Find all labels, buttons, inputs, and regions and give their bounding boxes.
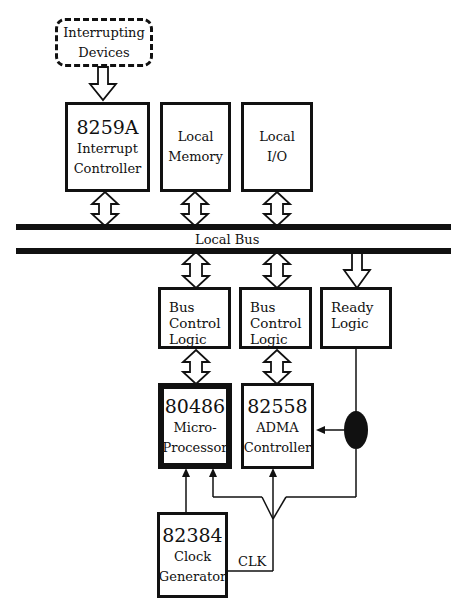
cpu-line2: Processor: [162, 438, 227, 458]
bus-control-logic-2-block: Bus Control Logic: [239, 287, 312, 349]
memory-line1: Local: [178, 127, 214, 147]
clock-part-number: 82384: [162, 523, 222, 547]
ready-line1: Ready: [331, 299, 373, 315]
connection-wires: [0, 0, 462, 609]
clock-line2: Generator: [159, 567, 226, 587]
bcl1-line2: Control: [169, 315, 220, 331]
devices-line2: Devices: [78, 43, 129, 63]
ready-logic-block: Ready Logic: [320, 287, 392, 349]
io-line1: Local: [259, 127, 295, 147]
ready-junction: [344, 411, 368, 449]
memory-line2: Memory: [168, 147, 223, 167]
clk-label: CLK: [238, 554, 266, 569]
arrow-bus-ready: [344, 252, 370, 288]
local-memory-block: Local Memory: [160, 102, 231, 192]
arrow-bus-bcl2: [264, 252, 290, 288]
bcl2-line2: Control: [250, 315, 301, 331]
arrow-memory-bus: [182, 192, 208, 226]
ready-line2: Logic: [331, 315, 369, 331]
arrow-bcl1-cpu: [183, 350, 209, 384]
cpu-part-number: 80486: [165, 394, 225, 418]
pic-part-number: 8259A: [76, 115, 138, 139]
local-io-block: Local I/O: [241, 102, 313, 192]
bcl1-line1: Bus: [169, 299, 195, 315]
local-bus-bottom-line: [16, 248, 451, 254]
adma-line1: ADMA: [256, 418, 299, 438]
local-bus-top-line: [16, 224, 451, 230]
adma-part-number: 82558: [247, 394, 307, 418]
arrow-pic-bus: [92, 192, 118, 226]
io-line2: I/O: [267, 147, 287, 167]
bcl2-line3: Logic: [250, 331, 288, 347]
interrupt-controller-block: 8259A Interrupt Controller: [65, 102, 150, 192]
bcl1-line3: Logic: [169, 331, 207, 347]
devices-line1: Interrupting: [63, 23, 145, 43]
bcl2-line1: Bus: [250, 299, 276, 315]
arrow-devices-to-pic: [90, 67, 116, 100]
pic-line1: Interrupt: [77, 139, 138, 159]
arrow-bus-bcl1: [183, 252, 209, 288]
interrupting-devices-block: Interrupting Devices: [55, 18, 153, 67]
microprocessor-block: 80486 Micro- Processor: [158, 383, 232, 469]
adma-line2: Controller: [244, 438, 312, 458]
bus-control-logic-1-block: Bus Control Logic: [158, 287, 231, 349]
cpu-line1: Micro-: [173, 418, 216, 438]
clock-generator-block: 82384 Clock Generator: [157, 512, 228, 598]
pic-line2: Controller: [74, 159, 142, 179]
local-bus-label: Local Bus: [195, 232, 259, 247]
clock-line1: Clock: [174, 547, 211, 567]
adma-controller-block: 82558 ADMA Controller: [241, 383, 314, 469]
arrow-io-bus: [264, 192, 290, 226]
arrow-bcl2-adma: [264, 350, 290, 384]
